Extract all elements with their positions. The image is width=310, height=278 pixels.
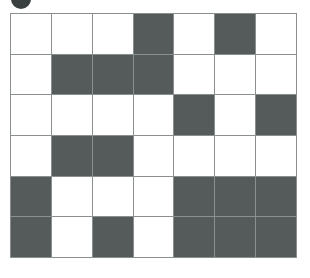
grid-cell-r2-c1[interactable]	[11, 55, 52, 96]
grid-cell-r2-c3[interactable]	[93, 55, 134, 96]
grid-cell-r5-c2[interactable]	[52, 177, 93, 218]
grid-cell-r2-c4[interactable]	[134, 55, 175, 96]
grid-cell-r1-c1[interactable]	[11, 14, 52, 55]
grid-cell-r5-c1[interactable]	[11, 177, 52, 218]
grid-cell-r2-c2[interactable]	[52, 55, 93, 96]
grid-cell-r4-c1[interactable]	[11, 136, 52, 177]
grid-cell-r6-c3[interactable]	[93, 217, 134, 258]
grid-cell-r5-c3[interactable]	[93, 177, 134, 218]
grid-cell-r6-c4[interactable]	[134, 217, 175, 258]
grid-cell-r4-c2[interactable]	[52, 136, 93, 177]
grid-cell-r1-c5[interactable]	[174, 14, 215, 55]
grid-cell-r5-c4[interactable]	[134, 177, 175, 218]
pattern-grid	[10, 13, 297, 258]
grid-cell-r5-c7[interactable]	[256, 177, 297, 218]
grid-cell-r2-c5[interactable]	[174, 55, 215, 96]
grid-cell-r4-c4[interactable]	[134, 136, 175, 177]
grid-cell-r6-c7[interactable]	[256, 217, 297, 258]
grid-cell-r2-c7[interactable]	[256, 55, 297, 96]
grid-cell-r1-c4[interactable]	[134, 14, 175, 55]
grid-cell-r6-c5[interactable]	[174, 217, 215, 258]
grid-cell-r3-c2[interactable]	[52, 95, 93, 136]
grid-cell-r4-c3[interactable]	[93, 136, 134, 177]
grid-cell-r3-c4[interactable]	[134, 95, 175, 136]
figure-canvas	[0, 0, 310, 278]
grid-cell-r3-c3[interactable]	[93, 95, 134, 136]
top-left-dot-icon	[11, 0, 31, 9]
grid-cell-r4-c6[interactable]	[215, 136, 256, 177]
grid-cell-r6-c1[interactable]	[11, 217, 52, 258]
grid-cell-r6-c6[interactable]	[215, 217, 256, 258]
grid-cell-r4-c7[interactable]	[256, 136, 297, 177]
grid-cell-r5-c6[interactable]	[215, 177, 256, 218]
grid-cell-r1-c7[interactable]	[256, 14, 297, 55]
grid-cell-r2-c6[interactable]	[215, 55, 256, 96]
grid-cell-r6-c2[interactable]	[52, 217, 93, 258]
grid-cell-r3-c6[interactable]	[215, 95, 256, 136]
grid-cell-r3-c1[interactable]	[11, 95, 52, 136]
grid-cell-r1-c3[interactable]	[93, 14, 134, 55]
grid-cell-r5-c5[interactable]	[174, 177, 215, 218]
grid-cell-r3-c5[interactable]	[174, 95, 215, 136]
grid-cell-r1-c2[interactable]	[52, 14, 93, 55]
grid-cell-r3-c7[interactable]	[256, 95, 297, 136]
grid-cell-r1-c6[interactable]	[215, 14, 256, 55]
grid-cell-r4-c5[interactable]	[174, 136, 215, 177]
